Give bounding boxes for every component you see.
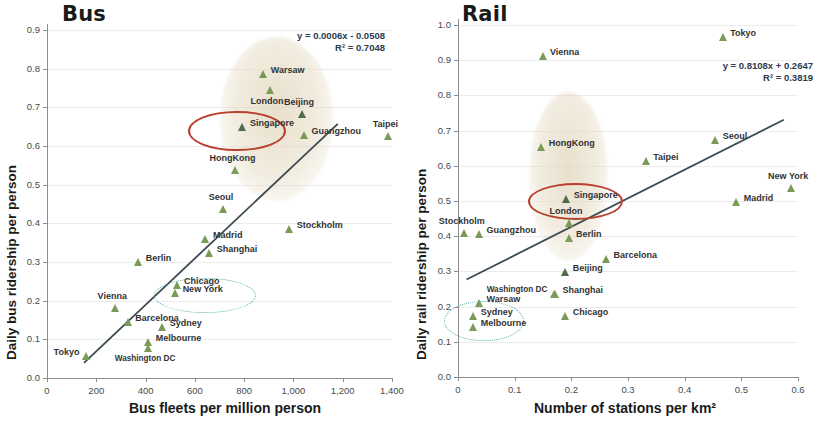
y-axis-tick [43,146,47,147]
data-point-marker[interactable] [134,258,142,266]
data-point-marker[interactable] [787,184,795,192]
data-point-marker[interactable] [469,312,477,320]
data-point-label: London [550,206,583,216]
y-axis-tick-label: 1.0 [418,19,451,30]
data-point-label: London [251,96,284,106]
data-point-label: Vienna [98,291,127,301]
data-point-label: Seoul [209,192,234,202]
bus-plot-area: 0.00.10.20.30.40.50.60.70.80.90200400600… [47,30,392,378]
data-point-marker[interactable] [561,312,569,320]
bus-chart-title: Bus [62,2,106,26]
y-axis-tick-label: 0.2 [418,301,451,312]
x-axis-tick [515,377,516,381]
data-point-marker[interactable] [562,195,570,203]
x-axis-tick [195,378,196,382]
data-point-marker[interactable] [219,205,227,213]
x-axis-tick [293,378,294,382]
x-axis-tick [685,377,686,381]
data-point-marker[interactable] [259,70,267,78]
y-axis-tick [454,131,458,132]
data-point-marker[interactable] [539,52,547,60]
x-axis-tick [628,377,629,381]
y-axis-tick-label: 0.4 [418,230,451,241]
data-point-marker[interactable] [550,290,558,298]
data-point-marker[interactable] [266,86,274,94]
data-point-marker[interactable] [475,230,483,238]
y-axis-tick-label: 0.6 [418,160,451,171]
data-point-marker[interactable] [201,235,209,243]
data-point-label: Chicago [573,307,609,317]
data-point-marker[interactable] [205,249,213,257]
rail-chart-title: Rail [462,2,508,26]
data-point-marker[interactable] [561,268,569,276]
data-point-marker[interactable] [384,132,392,140]
x-axis-tick [47,378,48,382]
y-axis-tick-label: 0.5 [7,179,40,190]
data-point-marker[interactable] [537,143,545,151]
data-point-label: Shanghai [217,244,258,254]
y-axis-tick-label: 0.9 [7,24,40,35]
data-point-label: Melbourne [481,318,527,328]
x-axis-tick [571,377,572,381]
data-point-marker[interactable] [469,323,477,331]
x-axis-tick [146,378,147,382]
data-point-marker[interactable] [719,33,727,41]
data-point-label: Guangzhou [487,225,537,235]
data-point-label: Berlin [146,253,172,263]
data-point-label: Shanghai [562,285,603,295]
y-axis-tick [454,95,458,96]
data-point-label: Tokyo [54,347,80,357]
data-point-label: Melbourne [156,333,202,343]
data-point-label: Singapore [250,118,294,128]
data-point-marker[interactable] [298,110,306,118]
data-point-label: Sydney [170,318,202,328]
data-point-marker[interactable] [732,198,740,206]
data-point-label: Beijing [573,263,603,273]
bus-x-axis-label: Bus fleets per million person [60,400,390,416]
x-axis-tick-label: 1,200 [318,385,368,396]
data-point-label: Beijing [284,97,314,107]
x-axis-tick-label: 800 [219,385,269,396]
y-axis-tick [43,69,47,70]
data-point-marker[interactable] [82,352,90,360]
data-point-label: Stockholm [297,220,343,230]
data-point-label: Stockholm [439,216,485,226]
data-point-marker[interactable] [565,234,573,242]
data-point-marker[interactable] [124,318,132,326]
data-point-marker[interactable] [144,344,152,352]
data-point-marker[interactable] [111,304,119,312]
data-point-marker[interactable] [238,123,246,131]
x-axis-tick-label: 0.3 [603,384,653,395]
data-point-label: HongKong [549,138,595,148]
x-axis-tick [96,378,97,382]
data-point-marker[interactable] [602,255,610,263]
y-axis-tick [454,201,458,202]
data-point-marker[interactable] [158,323,166,331]
y-axis-line [47,24,48,378]
data-point-marker[interactable] [171,289,179,297]
data-point-marker[interactable] [173,281,181,289]
data-point-label: Barcelona [613,250,657,260]
data-point-label: New York [768,171,808,181]
y-axis-tick [454,271,458,272]
y-axis-tick [454,60,458,61]
y-axis-tick [454,166,458,167]
y-axis-tick-label: 0.1 [418,336,451,347]
data-point-marker[interactable] [475,299,483,307]
x-axis-tick-label: 0.4 [660,384,710,395]
data-point-marker[interactable] [285,225,293,233]
data-point-marker[interactable] [300,131,308,139]
bus-chart-panel: Bus Daily bus ridership per person Bus f… [0,0,410,425]
data-point-marker[interactable] [642,157,650,165]
data-point-marker[interactable] [565,219,573,227]
trend-line [47,30,392,378]
y-axis-tick-label: 0.1 [7,333,40,344]
data-point-marker[interactable] [460,229,468,237]
data-point-label: Warsaw [271,65,305,75]
x-axis-tick-label: 1,000 [268,385,318,396]
y-axis-tick-label: 0.7 [418,125,451,136]
x-axis-tick [798,377,799,381]
data-point-label: Warsaw [487,294,521,304]
data-point-marker[interactable] [231,166,239,174]
data-point-marker[interactable] [711,136,719,144]
